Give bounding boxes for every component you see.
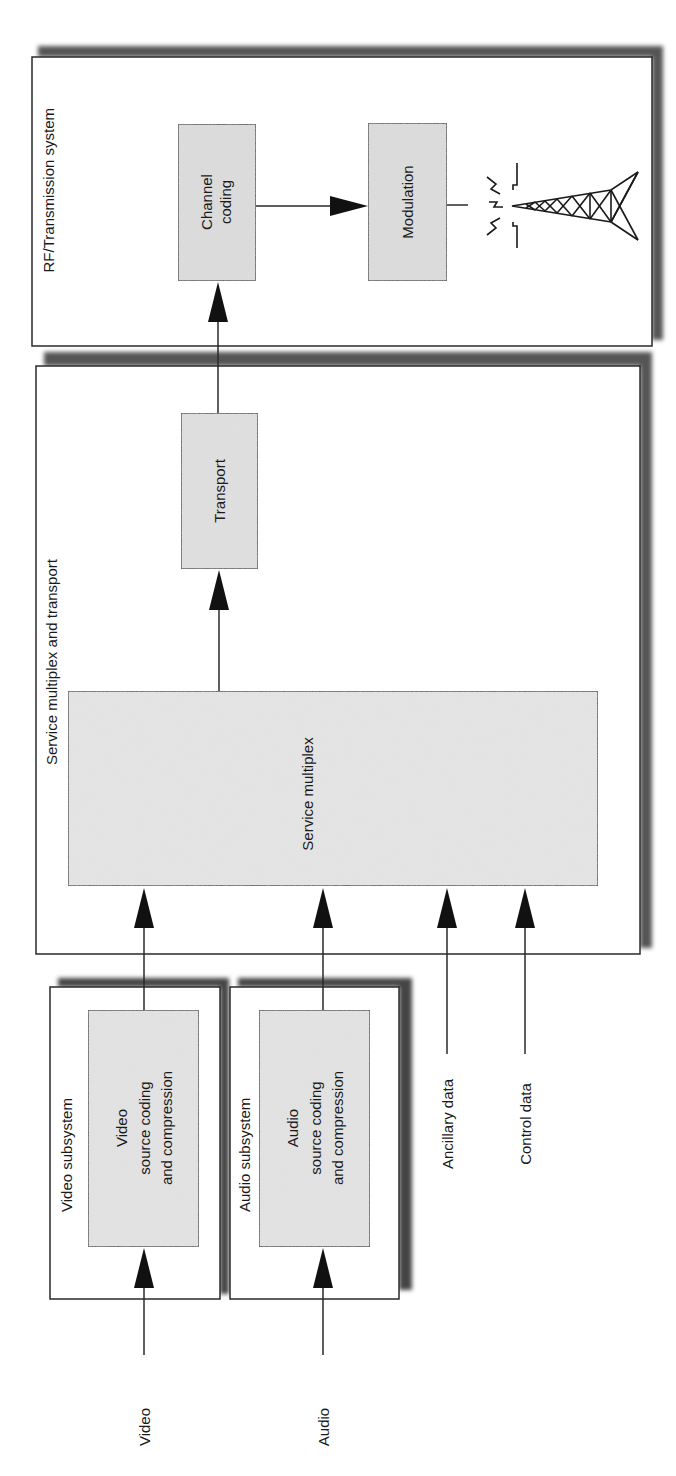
service-multiplex-label: Service multiplex <box>299 737 316 851</box>
transport-label: Transport <box>211 458 228 522</box>
audio-group-title: Audio subsystem <box>236 1098 253 1212</box>
video-group-title: Video subsystem <box>58 1098 75 1212</box>
service-multiplex-box <box>68 691 598 886</box>
atsc-system-block-diagram: RF/Transmission system Service multiplex… <box>0 0 676 1476</box>
rf-group-title: RF/Transmission system <box>40 108 57 272</box>
service-multiplex-block: Service multiplex <box>68 691 598 886</box>
video-coding-label-2: source coding <box>136 1081 153 1174</box>
audio-coding-label-1: Audio <box>284 1109 301 1147</box>
transport-block: Transport <box>181 413 258 569</box>
input-label-control: Control data <box>517 1082 534 1164</box>
channel-coding-label-2: coding <box>217 180 234 224</box>
audio-coding-label-3: and compression <box>329 1071 346 1185</box>
video-coding-label-1: Video <box>113 1109 130 1147</box>
input-label-ancillary: Ancillary data <box>439 1078 456 1169</box>
input-label-audio: Audio <box>315 1408 332 1446</box>
video-coding-label-3: and compression <box>158 1071 175 1185</box>
audio-coding-block: Audio source coding and compression <box>259 1010 370 1247</box>
channel-coding-block: Channel coding <box>178 124 256 281</box>
video-coding-block: Video source coding and compression <box>88 1010 199 1247</box>
rf-transmission-group: RF/Transmission system <box>32 46 663 346</box>
modulation-label: Modulation <box>399 165 416 238</box>
modulation-block: Modulation <box>368 123 447 281</box>
audio-coding-label-2: source coding <box>307 1081 324 1174</box>
channel-coding-label-1: Channel <box>198 174 215 230</box>
input-label-video: Video <box>136 1408 153 1446</box>
mux-group-title: Service multiplex and transport <box>43 558 60 765</box>
